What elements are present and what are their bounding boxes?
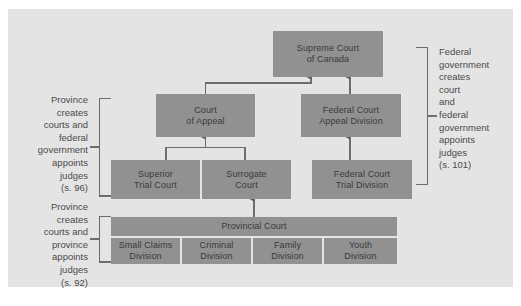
node-youth-division-label: Youth Division — [344, 240, 376, 262]
node-superior-trial-court: Superior Trial Court — [111, 160, 200, 199]
node-small-claims-division: Small Claims Division — [111, 238, 180, 264]
diagram-panel: Supreme Court of Canada Court of Appeal … — [8, 9, 513, 287]
annotation-right: Federal government creates court and fed… — [439, 46, 511, 172]
node-provincial-court-label: Provincial Court — [221, 221, 286, 232]
node-supreme-court-label: Supreme Court of Canada — [297, 43, 359, 65]
node-provincial-court: Provincial Court — [111, 217, 397, 236]
node-small-claims-division-label: Small Claims Division — [119, 240, 173, 262]
node-surrogate-court: Surrogate Court — [202, 160, 291, 199]
node-federal-court-trial-division-label: Federal Court Trial Division — [334, 169, 390, 191]
node-criminal-division: Criminal Division — [182, 238, 251, 264]
node-supreme-court: Supreme Court of Canada — [273, 31, 383, 77]
node-federal-court-appeal-division-label: Federal Court Appeal Division — [319, 105, 383, 127]
annotation-left-lower: Province creates courts and province app… — [16, 201, 88, 289]
node-family-division-label: Family Division — [271, 240, 303, 262]
node-court-of-appeal-label: Court of Appeal — [186, 105, 224, 127]
node-family-division: Family Division — [253, 238, 322, 264]
node-superior-trial-court-label: Superior Trial Court — [134, 169, 177, 191]
node-federal-court-appeal-division: Federal Court Appeal Division — [301, 94, 401, 137]
annotation-left-upper: Province creates courts and federal gove… — [16, 94, 88, 195]
node-surrogate-court-label: Surrogate Court — [226, 169, 266, 191]
node-youth-division: Youth Division — [324, 238, 397, 264]
node-criminal-division-label: Criminal Division — [200, 240, 234, 262]
node-federal-court-trial-division: Federal Court Trial Division — [312, 160, 412, 199]
node-court-of-appeal: Court of Appeal — [156, 94, 255, 137]
court-system-diagram: Supreme Court of Canada Court of Appeal … — [0, 0, 521, 306]
